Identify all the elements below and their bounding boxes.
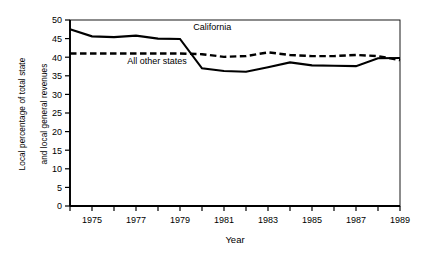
y-tick-group: 05101520253035404550	[52, 15, 70, 211]
x-tick-label: 1985	[302, 215, 322, 225]
x-tick-label: 1979	[170, 215, 190, 225]
y-tick-label: 35	[52, 71, 62, 81]
y-tick-label: 45	[52, 34, 62, 44]
y-tick-label: 5	[57, 183, 62, 193]
y-tick-label: 15	[52, 146, 62, 156]
chart-figure: Local percentage of total state and loca…	[0, 0, 436, 259]
x-tick-label: 1983	[258, 215, 278, 225]
x-tick-label: 1975	[82, 215, 102, 225]
plot-frame	[70, 20, 400, 206]
x-axis-title: Year	[225, 234, 244, 245]
x-tick-label: 1977	[126, 215, 146, 225]
y-tick-label: 20	[52, 127, 62, 137]
y-tick-label: 10	[52, 164, 62, 174]
y-tick-label: 30	[52, 90, 62, 100]
series-label-all-other-states: All other states	[127, 56, 187, 66]
axes-group	[70, 20, 400, 206]
y-tick-label: 50	[52, 15, 62, 25]
y-tick-label: 40	[52, 53, 62, 63]
series-annotation-group: CaliforniaAll other states	[127, 22, 231, 65]
x-tick-group: 19751977197919811983198519871989	[70, 206, 410, 225]
y-tick-label: 0	[57, 201, 62, 211]
series-label-california: California	[193, 22, 231, 32]
x-tick-label: 1981	[214, 215, 234, 225]
x-tick-label: 1989	[390, 215, 410, 225]
data-series-group	[70, 29, 400, 71]
y-tick-label: 25	[52, 108, 62, 118]
chart-plot-area: 05101520253035404550 1975197719791981198…	[0, 0, 436, 259]
x-tick-label: 1987	[346, 215, 366, 225]
series-line-california	[70, 29, 400, 71]
series-line-all-other-states	[70, 52, 400, 60]
